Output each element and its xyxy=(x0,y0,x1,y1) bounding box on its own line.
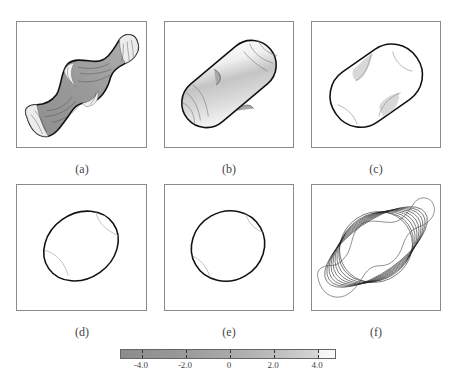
panel-f-plot xyxy=(312,185,440,310)
colorbar-tick xyxy=(186,350,188,358)
panel-e-plot xyxy=(165,185,293,310)
colorbar-tick xyxy=(230,350,232,358)
panel-e xyxy=(164,184,294,311)
panel-f xyxy=(311,184,441,311)
caption-f: (f) xyxy=(346,325,406,340)
panel-b xyxy=(164,21,294,148)
caption-b: (b) xyxy=(199,162,259,177)
panel-d-plot xyxy=(17,185,146,310)
caption-a: (a) xyxy=(52,162,112,177)
colorbar-tick-label: 4.0 xyxy=(302,360,332,370)
colorbar-tick xyxy=(142,350,144,358)
panel-d xyxy=(16,184,147,311)
colorbar-tick-label: 0 xyxy=(214,360,244,370)
colorbar xyxy=(120,349,336,359)
colorbar-tick-label: -4.0 xyxy=(126,360,156,370)
colorbar-tick-label: -2.0 xyxy=(170,360,200,370)
panel-a xyxy=(16,21,147,148)
panel-b-plot xyxy=(165,22,293,147)
caption-e: (e) xyxy=(199,325,259,340)
panel-c-plot xyxy=(312,22,440,147)
caption-c: (c) xyxy=(346,162,406,177)
panel-a-plot xyxy=(17,22,146,147)
colorbar-tick xyxy=(318,350,320,358)
caption-d: (d) xyxy=(52,325,112,340)
colorbar-tick xyxy=(274,350,276,358)
colorbar-tick-label: 2.0 xyxy=(258,360,288,370)
panel-c xyxy=(311,21,441,148)
